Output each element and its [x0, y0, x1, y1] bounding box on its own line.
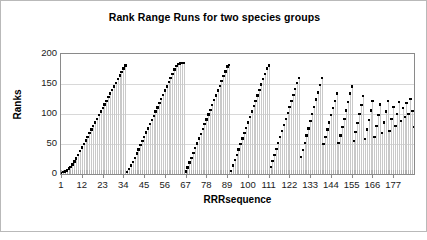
data-point-marker: [315, 98, 317, 100]
baseline-tick: [152, 170, 153, 174]
baseline-tick: [103, 170, 104, 174]
data-point-marker: [268, 64, 270, 66]
baseline-tick: [412, 170, 413, 174]
range-bar: [314, 107, 315, 174]
data-point-marker: [354, 131, 356, 133]
baseline-tick: [391, 170, 392, 174]
baseline-tick: [361, 170, 362, 174]
data-point-marker: [136, 152, 138, 154]
data-point-marker: [351, 85, 353, 87]
data-point-marker: [153, 115, 155, 117]
range-bar: [335, 101, 336, 174]
baseline-tick: [161, 170, 162, 174]
range-bar: [340, 136, 341, 174]
data-point-marker: [139, 144, 141, 146]
data-point-marker: [277, 142, 279, 144]
y-tick-label: 200: [23, 47, 57, 58]
range-bar: [280, 137, 281, 174]
baseline-tick: [410, 170, 411, 174]
range-bar: [331, 115, 332, 174]
range-bar: [295, 89, 296, 174]
data-point-marker: [151, 119, 153, 121]
baseline-tick: [131, 170, 132, 174]
baseline-tick: [378, 170, 379, 174]
range-bar: [95, 122, 96, 174]
baseline-tick: [252, 170, 253, 174]
baseline-tick: [133, 170, 134, 174]
data-point-marker: [339, 134, 341, 136]
baseline-tick: [271, 170, 272, 174]
baseline-tick: [291, 170, 292, 174]
data-point-marker: [145, 131, 147, 133]
range-bar: [293, 95, 294, 174]
range-bar: [93, 126, 94, 174]
range-bar: [263, 79, 264, 174]
baseline-tick: [86, 170, 87, 174]
data-point-marker: [279, 136, 281, 138]
baseline-tick: [244, 170, 245, 174]
data-point-marker: [156, 106, 158, 108]
data-point-marker: [256, 94, 258, 96]
x-tick-mark: [82, 175, 83, 178]
baseline-tick: [312, 170, 313, 174]
baseline-tick: [314, 170, 315, 174]
range-bar: [365, 139, 366, 174]
baseline-tick: [257, 170, 258, 174]
data-point-marker: [217, 89, 219, 91]
data-point-marker: [381, 132, 383, 134]
data-point-marker: [186, 166, 188, 168]
range-bar: [146, 133, 147, 174]
baseline-tick: [154, 170, 155, 174]
data-point-marker: [119, 74, 121, 76]
baseline-tick: [355, 170, 356, 174]
data-point-marker: [162, 94, 164, 96]
baseline-tick: [352, 170, 353, 174]
data-point-marker: [113, 85, 115, 87]
baseline-tick: [193, 170, 194, 174]
range-bar: [248, 122, 249, 174]
range-bar: [116, 83, 117, 174]
baseline-tick: [280, 170, 281, 174]
baseline-tick: [301, 170, 302, 174]
data-point-marker: [71, 163, 73, 165]
range-bar: [210, 110, 211, 174]
range-bar: [259, 90, 260, 174]
data-point-marker: [304, 142, 306, 144]
baseline-tick: [118, 170, 119, 174]
range-bar: [386, 112, 387, 174]
data-point-marker: [309, 120, 311, 122]
range-bar: [201, 134, 202, 174]
range-bar: [246, 128, 247, 174]
range-bar: [267, 68, 268, 174]
range-bar: [325, 137, 326, 174]
data-point-marker: [328, 121, 330, 123]
range-bar: [244, 133, 245, 174]
baseline-tick: [357, 170, 358, 174]
range-bar: [376, 126, 377, 174]
baseline-tick: [278, 170, 279, 174]
baseline-tick: [216, 170, 217, 174]
range-bar: [299, 78, 300, 174]
data-point-marker: [232, 164, 234, 166]
data-point-marker: [322, 143, 324, 145]
range-bar: [344, 119, 345, 174]
baseline-tick: [123, 170, 124, 174]
x-tick-mark: [165, 175, 166, 178]
range-bar: [99, 115, 100, 174]
range-bar: [269, 65, 270, 174]
baseline-tick: [174, 170, 175, 174]
baseline-tick: [367, 170, 368, 174]
data-point-marker: [88, 132, 90, 134]
data-point-marker: [85, 139, 87, 141]
range-bar: [391, 119, 392, 174]
baseline-tick: [208, 170, 209, 174]
range-bar: [408, 114, 409, 174]
range-bar: [103, 108, 104, 174]
data-point-marker: [296, 82, 298, 84]
range-bar: [120, 76, 121, 174]
range-bar: [212, 105, 213, 174]
range-bar: [118, 79, 119, 174]
data-point-marker: [262, 78, 264, 80]
baseline-tick: [148, 170, 149, 174]
baseline-tick: [212, 170, 213, 174]
